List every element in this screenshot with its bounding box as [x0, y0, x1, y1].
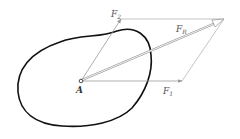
- label-f1: F1: [162, 86, 173, 97]
- label-point-a: A: [75, 85, 83, 95]
- force-fr-arrowhead: [212, 19, 224, 27]
- force-diagram: F2 FR F1 A: [0, 0, 240, 139]
- label-f2: F2: [110, 9, 121, 20]
- point-a-marker: [79, 79, 83, 83]
- label-fr: FR: [175, 24, 187, 35]
